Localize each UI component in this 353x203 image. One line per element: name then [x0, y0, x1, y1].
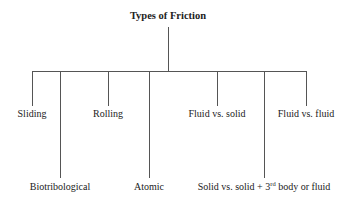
- node-atomic: Atomic: [134, 181, 164, 192]
- node-rolling: Rolling: [93, 108, 123, 119]
- node-fluid-vs-fluid: Fluid vs. fluid: [278, 108, 334, 119]
- label-prefix: Solid vs. solid + 3: [198, 181, 271, 192]
- node-solid-vs-solid-third-body: Solid vs. solid + 3rd body or fluid: [198, 181, 331, 192]
- node-biotribological: Biotribological: [30, 181, 91, 192]
- node-sliding: Sliding: [18, 108, 47, 119]
- tree-connectors: [0, 0, 353, 203]
- node-fluid-vs-solid: Fluid vs. solid: [189, 108, 246, 119]
- label-suffix: body or fluid: [276, 181, 331, 192]
